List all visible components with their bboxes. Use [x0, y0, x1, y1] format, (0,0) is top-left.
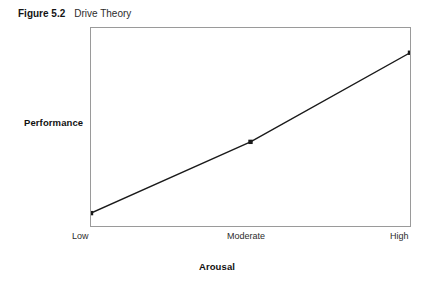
figure-title: Drive Theory [74, 8, 131, 19]
data-point-moderate [248, 140, 252, 144]
y-axis-title: Performance [24, 117, 83, 128]
x-tick-label-low: Low [72, 231, 89, 241]
data-point-markers [91, 51, 410, 216]
drive-theory-line-chart [91, 28, 410, 226]
data-line-drive-theory [91, 53, 410, 213]
figure-drive-theory: Figure 5.2Drive Theory Performance Low M… [0, 0, 434, 282]
x-tick-label-moderate: Moderate [227, 231, 265, 241]
plot-area [90, 27, 411, 227]
data-point-high [408, 51, 410, 55]
x-tick-label-high: High [390, 231, 409, 241]
x-axis-title: Arousal [0, 261, 434, 272]
figure-number: Figure 5.2 [18, 8, 65, 19]
data-point-low [91, 211, 93, 215]
figure-caption: Figure 5.2Drive Theory [18, 8, 131, 20]
